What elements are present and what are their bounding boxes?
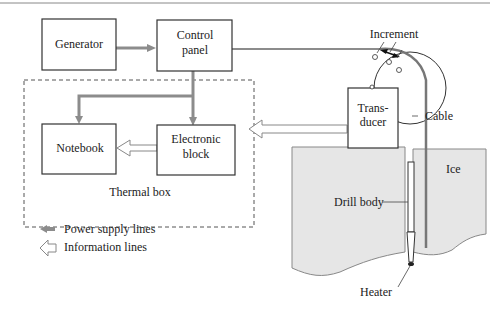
legend-power-icon [40,225,55,233]
info-arrow-electronic-to-notebook [117,140,157,156]
info-arrow-transducer-to-electronic [249,120,347,138]
generator-label: Generator [55,37,103,51]
heater-leader [398,266,410,287]
electronic-block-label-2: block [183,147,210,161]
ice-left [292,147,405,275]
notebook-label: Notebook [56,141,103,155]
control-panel-label-1: Control [177,28,214,42]
legend: Power supply lines Information lines [40,222,156,256]
legend-info-label: Information lines [64,240,147,254]
ice-label: Ice [446,162,461,176]
increment-hole [397,68,402,73]
transducer-label-2: ducer [360,115,387,129]
heater-label: Heater [360,285,392,299]
legend-power-label: Power supply lines [64,222,156,236]
cable-label: Cable [425,109,453,123]
increment-hole [373,55,378,60]
power-line-to-notebook [79,96,193,117]
drill-body [408,162,414,232]
heater-tip [407,232,415,262]
drill-body-label: Drill body [334,195,384,209]
power-arrowhead [75,116,83,124]
drilling-system-diagram: Generator Control panel Notebook Electro… [0,0,504,312]
increment-label: Increment [370,27,419,41]
transducer-label-1: Trans- [358,101,389,115]
transducer-pin [370,85,374,89]
electronic-block-label-1: Electronic [171,132,220,146]
control-panel-label-2: panel [182,43,209,57]
increment-hole [387,60,392,65]
thermal-box-label: Thermal box [109,185,171,199]
heater-point [408,262,414,266]
legend-info-icon [40,240,56,256]
power-arrowhead [147,44,156,52]
